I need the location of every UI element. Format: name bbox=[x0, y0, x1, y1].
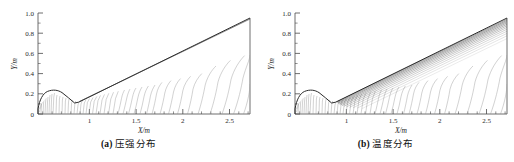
ramp-surface-highlight bbox=[80, 19, 250, 101]
contour-lines bbox=[40, 55, 251, 114]
x-tick-label: 2.5 bbox=[225, 117, 234, 125]
x-tick-label: 2 bbox=[438, 117, 442, 125]
y-tick-label: 0.4 bbox=[25, 70, 34, 78]
panel-pressure-distribution: 1.0 0.8 0.6 0.4 0.2 0 Y/m bbox=[0, 0, 257, 162]
figure-container: 1.0 0.8 0.6 0.4 0.2 0 Y/m bbox=[0, 0, 514, 162]
x-tick-label: 1.5 bbox=[389, 117, 398, 125]
x-tick-label: 2 bbox=[181, 117, 185, 125]
x-tick-label: 1 bbox=[88, 117, 92, 125]
panel-caption-text-b: 温度分布 bbox=[372, 139, 413, 149]
x-axis-major-ticks bbox=[89, 109, 229, 114]
x-axis-title: X/m bbox=[137, 126, 151, 135]
temperature-contour-plot: 1.0 0.8 0.6 0.4 0.2 0 Y/m bbox=[257, 0, 514, 138]
y-tick-label: 0.8 bbox=[282, 30, 291, 38]
y-axis-title: Y/m bbox=[267, 58, 276, 70]
x-tick-label: 1 bbox=[345, 117, 349, 125]
panel-caption-a: (a) 压强分布 bbox=[0, 136, 257, 150]
y-tick-label: 0.2 bbox=[25, 90, 34, 98]
y-tick-label: 0.2 bbox=[282, 90, 291, 98]
x-axis-major-ticks bbox=[346, 109, 486, 114]
thermal-boundary-layer bbox=[337, 19, 507, 108]
y-tick-label: 1.0 bbox=[282, 10, 291, 18]
y-tick-label: 1.0 bbox=[25, 10, 34, 18]
x-tick-label: 2.5 bbox=[482, 117, 491, 125]
x-axis-title: X/m bbox=[394, 126, 408, 135]
y-axis-title: Y/m bbox=[10, 58, 19, 70]
y-tick-label: 0.4 bbox=[282, 70, 291, 78]
panel-caption-text-a: 压强分布 bbox=[115, 139, 156, 149]
y-tick-label: 0.6 bbox=[282, 50, 291, 58]
panel-caption-label-b: (b) bbox=[358, 139, 370, 149]
panel-temperature-distribution: 1.0 0.8 0.6 0.4 0.2 0 Y/m bbox=[257, 0, 514, 162]
pressure-contour-plot: 1.0 0.8 0.6 0.4 0.2 0 Y/m bbox=[0, 0, 257, 138]
panel-caption-label-a: (a) bbox=[101, 139, 113, 149]
x-tick-label: 1.5 bbox=[132, 117, 141, 125]
y-tick-label: 0.6 bbox=[25, 50, 34, 58]
y-tick-label: 0 bbox=[31, 111, 35, 119]
y-tick-label: 0.8 bbox=[25, 30, 34, 38]
y-tick-label: 0 bbox=[288, 111, 292, 119]
duct-wall-outline bbox=[38, 18, 250, 114]
panel-caption-b: (b) 温度分布 bbox=[257, 136, 514, 150]
duct-wall-outline bbox=[295, 18, 507, 114]
